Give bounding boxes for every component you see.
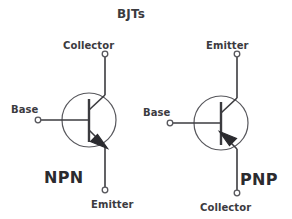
pnp-emitter-slant [221, 98, 237, 113]
npn-type-label: NPN [44, 170, 83, 186]
npn-collector-terminal-dot [102, 51, 108, 57]
npn-emitter-terminal-dot [102, 187, 108, 193]
pnp-base-label: Base [143, 108, 171, 118]
npn-base-label: Base [11, 105, 39, 115]
pnp-collector-label: Collector [200, 203, 251, 213]
bjt-diagram-canvas: BJTs Collector Base Emitter NPN Emitter … [0, 0, 292, 219]
npn-base-terminal-dot [35, 117, 41, 123]
npn-collector-label: Collector [63, 41, 114, 51]
pnp-type-label: PNP [240, 172, 278, 188]
pnp-emitter-terminal-dot [234, 51, 240, 57]
pnp-symbol [167, 51, 248, 196]
npn-collector-slant [89, 95, 105, 110]
npn-emitter-label: Emitter [91, 200, 134, 210]
diagram-title: BJTs [117, 8, 145, 20]
pnp-base-terminal-dot [167, 120, 173, 126]
pnp-emitter-label: Emitter [206, 41, 249, 51]
pnp-collector-terminal-dot [234, 190, 240, 196]
